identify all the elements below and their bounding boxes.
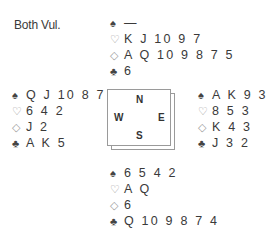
compass-north: N xyxy=(136,94,143,105)
west-clubs: ♣A K 5 xyxy=(12,135,106,151)
east-clubs: ♣J 3 2 xyxy=(198,135,268,151)
west-hearts: ♡6 4 2 xyxy=(12,103,106,119)
east-spades: ♠A K 9 3 xyxy=(198,87,268,103)
compass-box: N W E S xyxy=(107,89,171,146)
heart-icon: ♡ xyxy=(198,103,212,119)
diamond-icon: ◇ xyxy=(198,119,212,135)
diamond-icon: ◇ xyxy=(110,197,124,213)
west-spades: ♠Q J 10 8 7 xyxy=(12,87,106,103)
diamond-icon: ◇ xyxy=(12,119,26,135)
compass-table: N W E S xyxy=(107,89,171,145)
club-icon: ♣ xyxy=(110,213,124,229)
south-clubs: ♣Q 10 9 8 7 4 xyxy=(110,213,219,229)
club-icon: ♣ xyxy=(110,63,124,79)
club-icon: ♣ xyxy=(198,135,212,151)
heart-icon: ♡ xyxy=(110,181,124,197)
south-hearts: ♡A Q xyxy=(110,181,219,197)
club-icon: ♣ xyxy=(12,135,26,151)
spade-icon: ♠ xyxy=(198,87,212,103)
spade-icon: ♠ xyxy=(110,165,124,181)
spade-icon: ♠ xyxy=(110,15,124,31)
north-diamonds: ◇A Q 10 9 8 7 5 xyxy=(110,47,235,63)
vulnerability-label: Both Vul. xyxy=(14,18,60,32)
compass-east: E xyxy=(158,112,165,123)
north-hand: ♠— ♡K J 10 9 7 ◇A Q 10 9 8 7 5 ♣6 xyxy=(110,15,235,79)
west-hand: ♠Q J 10 8 7 ♡6 4 2 ◇J 2 ♣A K 5 xyxy=(12,87,106,151)
compass-west: W xyxy=(114,112,123,123)
north-hearts: ♡K J 10 9 7 xyxy=(110,31,235,47)
diamond-icon: ◇ xyxy=(110,47,124,63)
north-clubs: ♣6 xyxy=(110,63,235,79)
east-hand: ♠A K 9 3 ♡8 5 3 ◇K 4 3 ♣J 3 2 xyxy=(198,87,268,151)
south-hand: ♠6 5 4 2 ♡A Q ◇6 ♣Q 10 9 8 7 4 xyxy=(110,165,219,229)
east-diamonds: ◇K 4 3 xyxy=(198,119,268,135)
heart-icon: ♡ xyxy=(12,103,26,119)
spade-icon: ♠ xyxy=(12,87,26,103)
south-spades: ♠6 5 4 2 xyxy=(110,165,219,181)
north-spades: ♠— xyxy=(110,15,235,31)
west-diamonds: ◇J 2 xyxy=(12,119,106,135)
south-diamonds: ◇6 xyxy=(110,197,219,213)
heart-icon: ♡ xyxy=(110,31,124,47)
compass-south: S xyxy=(136,130,143,141)
east-hearts: ♡8 5 3 xyxy=(198,103,268,119)
